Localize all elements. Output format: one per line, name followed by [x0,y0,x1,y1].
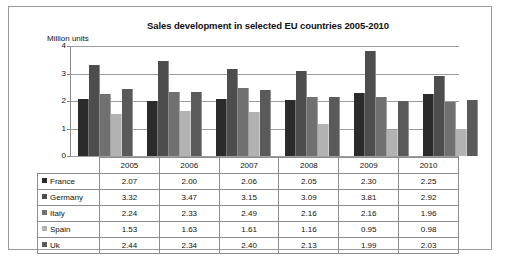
bar-group-2010 [416,46,485,156]
table-header-row: 200520062007200820092010 [38,158,459,174]
cell-italy-2010: 1.96 [399,206,459,222]
bar-germany-2007 [227,69,238,156]
bar-italy-2009 [376,97,387,156]
cell-uk-2005: 2.44 [100,238,160,254]
column-header-2007: 2007 [219,158,279,174]
cell-spain-2010: 0.98 [399,222,459,238]
legend-label: France [50,177,75,186]
cell-italy-2005: 2.24 [100,206,160,222]
table-header: 200520062007200820092010 [38,158,459,174]
bar-uk-2010 [467,100,478,156]
cell-france-2008: 2.05 [279,174,339,190]
bar-group-2008 [278,46,347,156]
bar-germany-2009 [365,51,376,156]
bar-group-2007 [209,46,278,156]
bar-spain-2008 [318,124,329,156]
bars-layer [71,46,459,156]
cell-france-2006: 2.00 [159,174,219,190]
bar-uk-2008 [329,97,340,156]
bar-germany-2010 [434,76,445,156]
legend-item-germany: Germany [38,190,100,206]
cell-france-2009: 2.30 [339,174,399,190]
cell-germany-2006: 3.47 [159,190,219,206]
legend-swatch-icon [42,178,47,183]
bar-france-2005 [78,99,89,156]
cell-spain-2007: 1.61 [219,222,279,238]
column-header-2005: 2005 [100,158,160,174]
bar-germany-2005 [89,65,100,156]
legend-item-spain: Spain [38,222,100,238]
table-row: France2.072.002.062.052.302.25 [38,174,459,190]
bar-germany-2008 [296,71,307,156]
cell-italy-2008: 2.16 [279,206,339,222]
bar-italy-2007 [238,88,249,156]
y-tick-mark [67,74,70,75]
bar-group-2005 [71,46,140,156]
y-axis-label: Million units [47,34,89,43]
table-body: France2.072.002.062.052.302.25Germany3.3… [38,174,459,254]
legend-item-uk: Uk [38,238,100,254]
chart-title: Sales development in selected EU countri… [69,20,467,31]
bar-italy-2010 [445,102,456,156]
table-row: Uk2.442.342.402.131.992.03 [38,238,459,254]
table-row: Italy2.242.332.492.162.161.96 [38,206,459,222]
legend-swatch-icon [42,242,47,247]
cell-spain-2005: 1.53 [100,222,160,238]
bar-germany-2006 [158,61,169,156]
legend-swatch-icon [42,210,47,215]
bar-france-2006 [147,101,158,156]
legend-label: Spain [50,225,70,234]
legend-swatch-icon [42,226,47,231]
column-header-2010: 2010 [399,158,459,174]
legend-label: Uk [50,241,60,250]
cell-spain-2009: 0.95 [339,222,399,238]
column-header-2009: 2009 [339,158,399,174]
bar-italy-2008 [307,97,318,156]
cell-france-2005: 2.07 [100,174,160,190]
legend-label: Italy [50,209,65,218]
bar-france-2009 [354,93,365,156]
cell-germany-2008: 3.09 [279,190,339,206]
cell-italy-2007: 2.49 [219,206,279,222]
table-corner-cell [38,158,100,174]
bar-group-2006 [140,46,209,156]
legend-item-france: France [38,174,100,190]
legend-label: Germany [50,193,83,202]
table-row: Spain1.531.631.611.160.950.98 [38,222,459,238]
bar-spain-2009 [387,130,398,156]
cell-germany-2010: 2.92 [399,190,459,206]
cell-france-2007: 2.06 [219,174,279,190]
bar-uk-2007 [260,90,271,156]
y-tick-mark [67,129,70,130]
bar-uk-2005 [122,89,133,156]
bar-france-2008 [285,100,296,156]
bar-france-2010 [423,94,434,156]
cell-italy-2009: 2.16 [339,206,399,222]
bar-uk-2009 [398,101,409,156]
cell-uk-2006: 2.34 [159,238,219,254]
cell-uk-2010: 2.03 [399,238,459,254]
plot-area: 01234 [70,46,459,156]
bar-uk-2006 [191,92,202,156]
y-tick-label: 2 [62,97,66,105]
cell-germany-2007: 3.15 [219,190,279,206]
cell-italy-2006: 2.33 [159,206,219,222]
cell-uk-2009: 1.99 [339,238,399,254]
bar-italy-2005 [100,94,111,156]
column-header-2006: 2006 [159,158,219,174]
cell-germany-2009: 3.81 [339,190,399,206]
legend-swatch-icon [42,194,47,199]
legend-item-italy: Italy [38,206,100,222]
bar-group-2009 [347,46,416,156]
bar-spain-2005 [111,114,122,156]
cell-uk-2007: 2.40 [219,238,279,254]
cell-spain-2008: 1.16 [279,222,339,238]
y-tick-mark [67,46,70,47]
bar-spain-2006 [180,111,191,156]
bar-france-2007 [216,99,227,156]
y-tick-mark [67,101,70,102]
y-tick-label: 4 [62,42,66,50]
data-table: 200520062007200820092010 France2.072.002… [37,157,459,254]
cell-germany-2005: 3.32 [100,190,160,206]
bar-spain-2007 [249,112,260,156]
